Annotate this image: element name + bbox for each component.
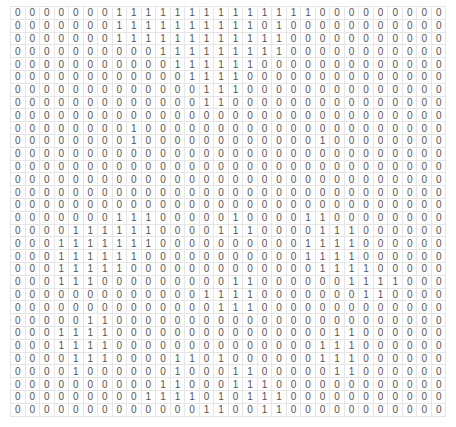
grid-cell[interactable]: 1	[54, 326, 69, 339]
grid-cell[interactable]: 0	[127, 403, 142, 416]
grid-cell[interactable]: 0	[431, 58, 446, 71]
grid-cell[interactable]: 1	[156, 19, 171, 32]
grid-cell[interactable]: 1	[243, 32, 258, 45]
grid-cell[interactable]: 0	[257, 19, 272, 32]
grid-cell[interactable]: 0	[40, 314, 55, 327]
grid-cell[interactable]: 0	[257, 326, 272, 339]
grid-cell[interactable]: 1	[69, 224, 84, 237]
grid-cell[interactable]: 0	[388, 96, 403, 109]
grid-cell[interactable]: 0	[431, 160, 446, 173]
grid-cell[interactable]: 0	[185, 250, 200, 263]
grid-cell[interactable]: 0	[402, 147, 417, 160]
grid-cell[interactable]: 0	[402, 378, 417, 391]
grid-cell[interactable]: 1	[54, 262, 69, 275]
grid-cell[interactable]: 0	[127, 378, 142, 391]
grid-cell[interactable]: 0	[69, 314, 84, 327]
grid-cell[interactable]: 0	[141, 378, 156, 391]
grid-cell[interactable]: 0	[214, 250, 229, 263]
grid-cell[interactable]: 0	[359, 7, 374, 20]
grid-cell[interactable]: 1	[228, 58, 243, 71]
grid-cell[interactable]: 0	[417, 147, 432, 160]
grid-cell[interactable]: 0	[286, 147, 301, 160]
grid-cell[interactable]: 0	[156, 160, 171, 173]
grid-cell[interactable]: 0	[373, 32, 388, 45]
grid-cell[interactable]: 0	[272, 70, 287, 83]
grid-cell[interactable]: 0	[344, 173, 359, 186]
grid-cell[interactable]: 0	[214, 134, 229, 147]
grid-cell[interactable]: 0	[286, 365, 301, 378]
grid-cell[interactable]: 0	[388, 45, 403, 58]
grid-cell[interactable]: 0	[344, 314, 359, 327]
grid-cell[interactable]: 0	[431, 186, 446, 199]
grid-cell[interactable]: 0	[359, 326, 374, 339]
grid-cell[interactable]: 0	[112, 288, 127, 301]
grid-cell[interactable]: 0	[11, 262, 26, 275]
grid-cell[interactable]: 0	[40, 326, 55, 339]
grid-cell[interactable]: 0	[373, 173, 388, 186]
grid-cell[interactable]: 0	[243, 83, 258, 96]
grid-cell[interactable]: 1	[83, 352, 98, 365]
grid-cell[interactable]: 0	[185, 365, 200, 378]
grid-cell[interactable]: 0	[11, 19, 26, 32]
grid-cell[interactable]: 1	[83, 275, 98, 288]
grid-cell[interactable]: 0	[301, 147, 316, 160]
grid-cell[interactable]: 0	[185, 147, 200, 160]
grid-cell[interactable]: 0	[286, 58, 301, 71]
grid-cell[interactable]: 0	[40, 134, 55, 147]
grid-cell[interactable]: 0	[257, 70, 272, 83]
grid-cell[interactable]: 1	[141, 390, 156, 403]
grid-cell[interactable]: 0	[112, 326, 127, 339]
grid-cell[interactable]: 0	[373, 96, 388, 109]
grid-cell[interactable]: 0	[25, 58, 40, 71]
grid-cell[interactable]: 0	[156, 134, 171, 147]
grid-cell[interactable]: 1	[214, 19, 229, 32]
grid-cell[interactable]: 0	[83, 83, 98, 96]
grid-cell[interactable]: 0	[417, 83, 432, 96]
grid-cell[interactable]: 0	[141, 109, 156, 122]
grid-cell[interactable]: 0	[402, 173, 417, 186]
grid-cell[interactable]: 0	[156, 301, 171, 314]
grid-cell[interactable]: 0	[431, 198, 446, 211]
grid-cell[interactable]: 1	[214, 288, 229, 301]
grid-cell[interactable]: 0	[417, 378, 432, 391]
grid-cell[interactable]: 0	[272, 288, 287, 301]
grid-cell[interactable]: 0	[373, 250, 388, 263]
grid-cell[interactable]: 0	[286, 186, 301, 199]
grid-cell[interactable]: 0	[359, 147, 374, 160]
grid-cell[interactable]: 0	[156, 122, 171, 135]
grid-cell[interactable]: 0	[228, 326, 243, 339]
grid-cell[interactable]: 0	[301, 262, 316, 275]
grid-cell[interactable]: 0	[69, 96, 84, 109]
grid-cell[interactable]: 0	[417, 211, 432, 224]
grid-cell[interactable]: 0	[417, 237, 432, 250]
grid-cell[interactable]: 1	[344, 237, 359, 250]
grid-cell[interactable]: 0	[156, 237, 171, 250]
grid-cell[interactable]: 1	[112, 211, 127, 224]
grid-cell[interactable]: 0	[83, 70, 98, 83]
grid-cell[interactable]: 1	[301, 211, 316, 224]
grid-cell[interactable]: 0	[40, 275, 55, 288]
grid-cell[interactable]: 0	[83, 198, 98, 211]
grid-cell[interactable]: 0	[286, 352, 301, 365]
grid-cell[interactable]: 0	[11, 224, 26, 237]
grid-cell[interactable]: 0	[25, 198, 40, 211]
grid-cell[interactable]: 1	[98, 262, 113, 275]
grid-cell[interactable]: 0	[301, 160, 316, 173]
grid-cell[interactable]: 0	[373, 7, 388, 20]
grid-cell[interactable]: 1	[141, 237, 156, 250]
grid-cell[interactable]: 0	[170, 70, 185, 83]
grid-cell[interactable]: 0	[185, 403, 200, 416]
grid-cell[interactable]: 1	[257, 7, 272, 20]
grid-cell[interactable]: 0	[301, 275, 316, 288]
grid-cell[interactable]: 0	[388, 237, 403, 250]
grid-cell[interactable]: 0	[83, 365, 98, 378]
grid-cell[interactable]: 0	[156, 288, 171, 301]
grid-cell[interactable]: 0	[11, 32, 26, 45]
grid-cell[interactable]: 0	[330, 198, 345, 211]
grid-cell[interactable]: 0	[272, 147, 287, 160]
grid-cell[interactable]: 1	[344, 352, 359, 365]
grid-cell[interactable]: 1	[214, 32, 229, 45]
grid-cell[interactable]: 1	[344, 339, 359, 352]
grid-cell[interactable]: 0	[402, 301, 417, 314]
grid-cell[interactable]: 0	[228, 96, 243, 109]
